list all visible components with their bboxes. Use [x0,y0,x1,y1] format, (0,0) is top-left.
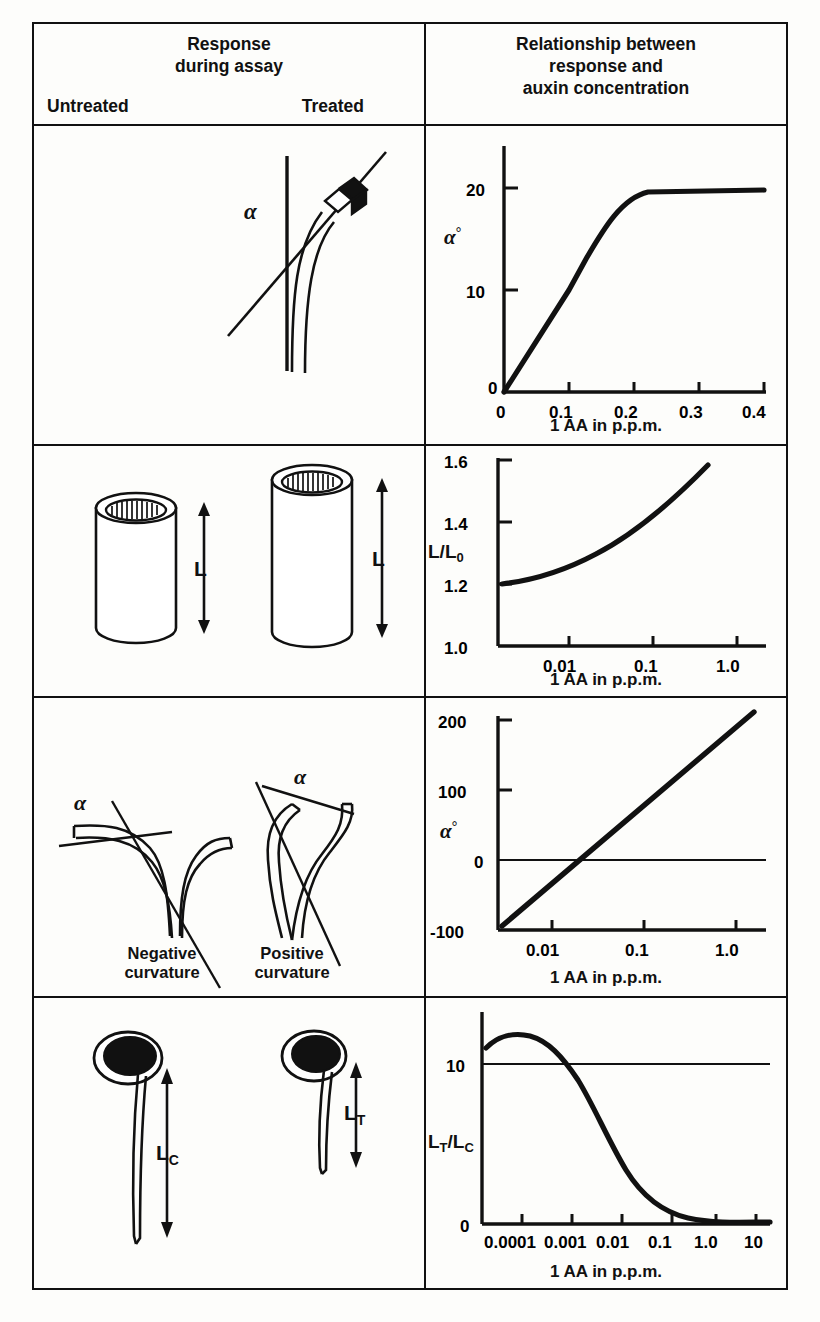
cylinder-untreated: L [96,493,210,643]
illustration-coleoptile-sections: L [34,446,426,696]
length-label-untreated: L [194,557,207,580]
header-relationship-line2: response and [426,55,786,77]
header-response-line1: Response [34,33,424,55]
table-row: α 20 [34,126,786,446]
response-curve [504,190,764,392]
y-tick-label: 1.0 [444,639,468,658]
y-tick-label: 1.4 [444,515,468,534]
caption-line2: curvature [92,963,232,982]
y-tick-label: -100 [430,923,464,942]
y-axis-label: α° [444,225,461,249]
y-tick-label: 0 [488,379,497,398]
length-label-control: LC [156,1141,179,1168]
x-tick-label: 0.01 [526,941,559,960]
x-axis-label: 1 AA in p.p.m. [426,968,786,988]
x-tick-label: 1.0 [694,1233,718,1252]
chart-coleoptile-elongation: 1.6 1.4 1.2 1.0 0.01 0.1 1.0 L/L0 1 AA i… [426,446,786,696]
y-tick-label: 10 [466,283,485,302]
y-tick-label: 0 [460,1217,469,1236]
y-tick-label: 20 [466,181,485,200]
x-tick-label: 10 [744,1233,763,1252]
table-row: L [34,446,786,698]
y-tick-label: 200 [438,713,466,732]
illustration-avena-curvature: α [34,126,426,444]
angle-symbol-alpha: α [244,199,258,224]
y-tick-label: 1.2 [444,577,468,596]
coleoptile-cylinders-drawing: L [34,446,426,696]
y-tick-label: 1.6 [444,453,468,472]
header-cell-response: Response during assay Untreated Treated [34,24,426,124]
header-relationship-line3: auxin concentration [426,77,786,99]
response-curve [486,1035,770,1223]
angle-symbol-alpha: α [294,764,307,789]
header-response-title: Response during assay [34,33,424,77]
header-untreated-label: Untreated [47,96,129,117]
response-curve [502,465,708,584]
x-axis-label: 1 AA in p.p.m. [426,1262,786,1282]
chart-avena-svg: 20 10 0 0 0.1 0.2 0.3 0.4 α° [426,126,786,444]
response-curve [502,712,754,926]
figure-page: Response during assay Untreated Treated … [0,0,820,1322]
avena-coleoptile-drawing: α [34,126,426,444]
pea-stem-positive: α [256,764,354,966]
y-axis-label: α° [440,819,457,843]
table-row: α α Negative [34,698,786,998]
cylinder-treated: L [272,465,388,647]
seedling-treated: LT [282,1031,366,1174]
illustration-split-pea-stem: α α Negative [34,698,426,996]
y-tick-label: 0 [474,853,483,872]
table-header: Response during assay Untreated Treated … [34,24,786,126]
illustration-root-growth: LC LT [34,998,426,1290]
y-axis-label: L/L0 [428,541,464,565]
header-relationship-line1: Relationship between [426,33,786,55]
x-axis-label: 1 AA in p.p.m. [426,416,786,436]
caption-line1: Negative [92,944,232,963]
y-axis-label: LT/LC [428,1131,474,1155]
seedling-control: LC [94,1032,179,1244]
x-tick-label: 0.1 [648,1233,672,1252]
angle-symbol-alpha: α [74,790,87,815]
x-tick-label: 0.001 [544,1233,587,1252]
length-label-treated: LT [344,1101,366,1128]
x-tick-label: 1.0 [715,941,739,960]
caption-line1: Positive [222,944,362,963]
chart-coleoptile-svg: 1.6 1.4 1.2 1.0 0.01 0.1 1.0 L/L0 [426,446,786,696]
x-tick-label: 0.1 [625,941,649,960]
length-label-treated: L [372,547,385,570]
x-tick-label: 0.0001 [484,1233,536,1252]
caption-negative-curvature: Negative curvature [92,944,232,982]
header-treated-label: Treated [302,96,364,117]
y-tick-label: 10 [446,1057,465,1076]
seedling-drawing: LC LT [34,998,426,1290]
x-axis-label: 1 AA in p.p.m. [426,670,786,690]
bioassay-table: Response during assay Untreated Treated … [32,22,788,1290]
chart-pea-svg: 200 100 0 -100 0.01 0.1 1.0 α° [426,698,786,996]
chart-root-growth: 10 0 0.0001 0.001 0.01 0.1 1.0 10 LT/LC … [426,998,786,1290]
chart-root-svg: 10 0 0.0001 0.001 0.01 0.1 1.0 10 LT/LC [426,998,786,1290]
caption-positive-curvature: Positive curvature [222,944,362,982]
header-relationship-title: Relationship between response and auxin … [426,33,786,99]
caption-line2: curvature [222,963,362,982]
header-cell-relationship: Relationship between response and auxin … [426,24,786,124]
chart-pea-curvature: 200 100 0 -100 0.01 0.1 1.0 α° 1 AA in p… [426,698,786,996]
y-tick-label: 100 [438,783,466,802]
table-row: LC LT [34,998,786,1290]
header-response-line2: during assay [34,55,424,77]
x-tick-label: 0.01 [596,1233,629,1252]
chart-avena-curvature: 20 10 0 0 0.1 0.2 0.3 0.4 α° 1 AA in p.p… [426,126,786,444]
